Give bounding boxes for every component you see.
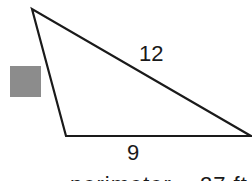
hypotenuse-label: 12 (139, 43, 163, 65)
triangle-shape (32, 9, 251, 136)
caption-text: perimeter = 27 ft (70, 172, 248, 181)
triangle-figure (0, 0, 252, 181)
unknown-side-marker (10, 66, 41, 97)
base-label: 9 (127, 142, 139, 164)
